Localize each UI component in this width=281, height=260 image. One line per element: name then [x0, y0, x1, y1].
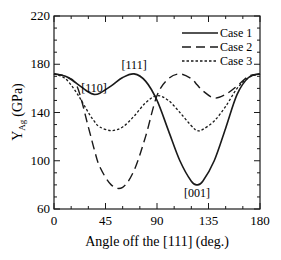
- x-axis-title: Angle off the [111] (deg.): [85, 234, 229, 250]
- chart: 0459013518060100140180220 [110][111][001…: [0, 0, 281, 260]
- annotation-label: [001]: [184, 186, 210, 200]
- y-tick-label: 180: [31, 56, 51, 71]
- legend-entry: Case 1: [220, 26, 252, 40]
- y-axis-title-main: Y: [10, 131, 25, 141]
- y-axis-title-unit: (GPa): [10, 83, 26, 117]
- x-tick-label: 0: [51, 213, 58, 228]
- y-tick-label: 140: [31, 105, 51, 120]
- legend-entry: Case 3: [220, 54, 252, 68]
- x-tick-label: 90: [151, 213, 164, 228]
- annotation-label: [111]: [122, 58, 147, 72]
- x-tick-label: 45: [99, 213, 112, 228]
- y-axis-title: YAg(GPa): [10, 83, 27, 141]
- x-tick-label: 180: [250, 213, 270, 228]
- svg-text:YAg(GPa): YAg(GPa): [10, 83, 27, 141]
- x-tick-label: 135: [199, 213, 219, 228]
- annotations: [110][111][001]: [81, 58, 210, 200]
- y-axis-title-sub: Ag: [17, 119, 27, 130]
- y-tick-label: 220: [31, 8, 51, 23]
- legend-entry: Case 2: [220, 40, 252, 54]
- y-tick-label: 60: [37, 201, 50, 216]
- annotation-label: [110]: [81, 81, 107, 95]
- y-tick-label: 100: [31, 153, 51, 168]
- legend: Case 1Case 2Case 3: [182, 26, 252, 68]
